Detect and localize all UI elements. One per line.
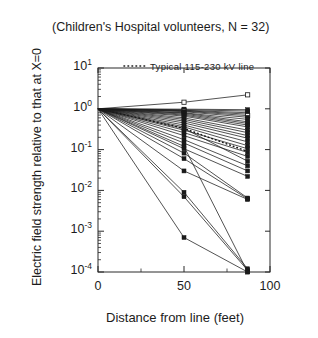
series-marker xyxy=(246,154,250,158)
series-marker xyxy=(246,169,250,173)
series-marker xyxy=(246,174,250,178)
series-line xyxy=(98,95,248,109)
series-line xyxy=(98,109,248,272)
series-marker xyxy=(246,147,250,151)
series-marker xyxy=(246,197,250,201)
series-marker xyxy=(246,270,250,274)
data-series-group xyxy=(98,93,250,274)
series-marker xyxy=(182,144,186,148)
series-marker xyxy=(182,151,186,155)
series-marker xyxy=(182,134,186,138)
series-marker xyxy=(246,164,250,168)
series-marker xyxy=(182,169,186,173)
series-marker xyxy=(246,140,250,144)
series-line xyxy=(98,109,248,200)
series-line xyxy=(98,109,248,272)
series-marker xyxy=(246,93,250,97)
series-marker xyxy=(182,157,186,161)
series-marker xyxy=(182,100,186,104)
chart-figure: (Children's Hospital volunteers, N = 32)… xyxy=(0,0,318,338)
series-marker xyxy=(246,159,250,163)
series-marker xyxy=(182,236,186,240)
series-marker xyxy=(182,190,186,194)
plot-area xyxy=(0,0,318,338)
series-marker xyxy=(182,195,186,199)
